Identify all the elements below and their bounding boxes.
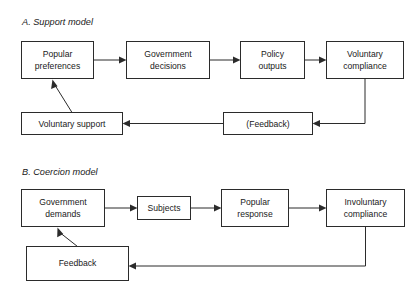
node-feedback-b-label: Feedback (59, 258, 97, 268)
edge-outputs-to-compliance (305, 57, 327, 64)
node-subjects-label: Subjects (148, 203, 181, 213)
node-voluntary-compliance-line-2: compliance (343, 61, 387, 71)
node-involuntary-compliance-line-2: compliance (344, 209, 388, 219)
node-government-decisions-line-2: decisions (150, 61, 186, 71)
node-subjects: Subjects (138, 197, 191, 220)
node-government-decisions-line-1: Government (144, 49, 192, 59)
edge-decisions-to-outputs (210, 57, 241, 64)
node-popular-preferences-line-2: preferences (35, 61, 80, 71)
arrow-head-icon (319, 57, 327, 64)
node-popular-preferences: Popular preferences (22, 42, 94, 79)
node-involuntary-compliance-box (327, 190, 405, 227)
node-popular-preferences-line-1: Popular (43, 49, 73, 59)
node-voluntary-compliance-box (327, 42, 404, 79)
arrow-head-icon (233, 57, 241, 64)
node-involuntary-compliance: Involuntary compliance (327, 190, 405, 227)
arrow-head-icon (313, 120, 321, 127)
node-popular-response-line-2: response (237, 209, 273, 219)
node-policy-outputs-box (241, 42, 305, 79)
edge-prefs-to-decisions (94, 57, 127, 64)
arrow-head-icon (129, 263, 137, 270)
node-popular-response-line-1: Popular (240, 197, 270, 207)
node-involuntary-compliance-line-1: Involuntary (344, 197, 387, 207)
node-popular-response-box (222, 190, 289, 227)
node-government-demands-line-1: Government (39, 197, 87, 207)
node-policy-outputs-line-1: Policy (261, 49, 285, 59)
edge-compliance-to-feedback (313, 79, 366, 127)
node-government-demands: Government demands (22, 190, 105, 227)
edge-support-to-prefs (51, 80, 72, 113)
node-feedback-b: Feedback (27, 247, 129, 281)
panel-b-title: B. Coercion model (22, 167, 99, 177)
arrow-head-icon (130, 205, 138, 212)
arrow-head-icon (214, 205, 222, 212)
node-feedback-a-label: (Feedback) (246, 119, 290, 129)
edge-response-to-compliance (289, 205, 327, 212)
arrow-head-icon (319, 205, 327, 212)
edge-feedback-to-demands (57, 228, 77, 247)
node-government-demands-box (22, 190, 105, 227)
figure-container: A. Support model Popular preferences Gov… (0, 0, 417, 293)
node-voluntary-compliance-line-1: Voluntary (347, 49, 384, 59)
node-voluntary-support-label: Voluntary support (39, 119, 106, 129)
node-policy-outputs-line-2: outputs (258, 61, 286, 71)
node-government-decisions: Government decisions (127, 42, 210, 79)
edge-subjects-to-response (191, 205, 222, 212)
node-popular-response: Popular response (222, 190, 289, 227)
node-voluntary-support: Voluntary support (22, 113, 123, 135)
node-policy-outputs: Policy outputs (241, 42, 305, 79)
node-popular-preferences-box (22, 42, 94, 79)
node-feedback-a: (Feedback) (224, 113, 313, 135)
node-government-demands-line-2: demands (45, 209, 80, 219)
diagram-canvas: A. Support model Popular preferences Gov… (0, 0, 417, 293)
edge-compliance-to-feedback-b (129, 227, 366, 270)
arrow-head-icon (119, 57, 127, 64)
node-voluntary-compliance: Voluntary compliance (327, 42, 404, 79)
edge-demands-to-subjects (105, 205, 138, 212)
edge-feedback-to-support (123, 120, 224, 127)
arrow-head-icon (123, 120, 131, 127)
panel-a-title: A. Support model (21, 17, 94, 27)
arrow-head-icon (57, 228, 63, 238)
node-government-decisions-box (127, 42, 210, 79)
